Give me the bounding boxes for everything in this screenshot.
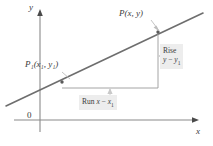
p-label-leader-arrow <box>154 25 160 31</box>
x-axis-arrowhead <box>192 117 199 123</box>
diagram-canvas <box>0 0 213 146</box>
y-axis <box>37 9 43 132</box>
rise-callout-box: Rise y − y1 <box>160 44 183 69</box>
run-callout-word: Run <box>82 97 96 106</box>
point-marker-p1 <box>60 80 63 83</box>
x-axis-label: x <box>196 127 200 136</box>
run-callout-box: Run x − x1 <box>79 95 117 110</box>
run-minus-sign: − <box>100 97 108 106</box>
y-axis-arrowhead <box>37 9 43 16</box>
y-axis-label: y <box>29 3 33 12</box>
run-callout-leader-arrow <box>107 88 112 94</box>
point-label-p: P(x, y) <box>119 9 143 18</box>
origin-label: 0 <box>27 111 32 120</box>
run-var-subscript: 1 <box>111 102 114 108</box>
x-axis <box>14 117 199 123</box>
rise-var-subscript: 1 <box>178 60 181 66</box>
rise-callout-line1: Rise <box>163 46 180 55</box>
slope-diagram-figure: y x 0 P(x, y) P₁(x₁, y₁) Rise y − y1 Run… <box>0 0 213 146</box>
point-marker-p <box>156 30 159 33</box>
point-label-p1: P₁(x₁, y₁) <box>25 60 58 69</box>
rise-callout-line2: y − y1 <box>163 55 180 66</box>
